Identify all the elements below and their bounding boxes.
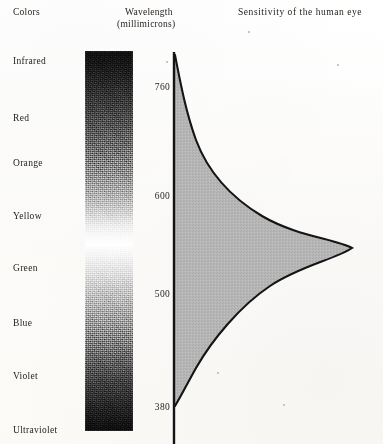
scan-speck	[166, 61, 168, 63]
scan-speck	[217, 372, 219, 374]
sensitivity-curve-chart	[0, 0, 383, 444]
sensitivity-area-fill	[175, 55, 352, 406]
scan-speck	[337, 64, 339, 66]
figure-canvas: Colors Wavelength (millimicrons) Sensiti…	[0, 0, 383, 444]
scan-speck	[248, 31, 250, 33]
scan-speck	[283, 404, 285, 406]
